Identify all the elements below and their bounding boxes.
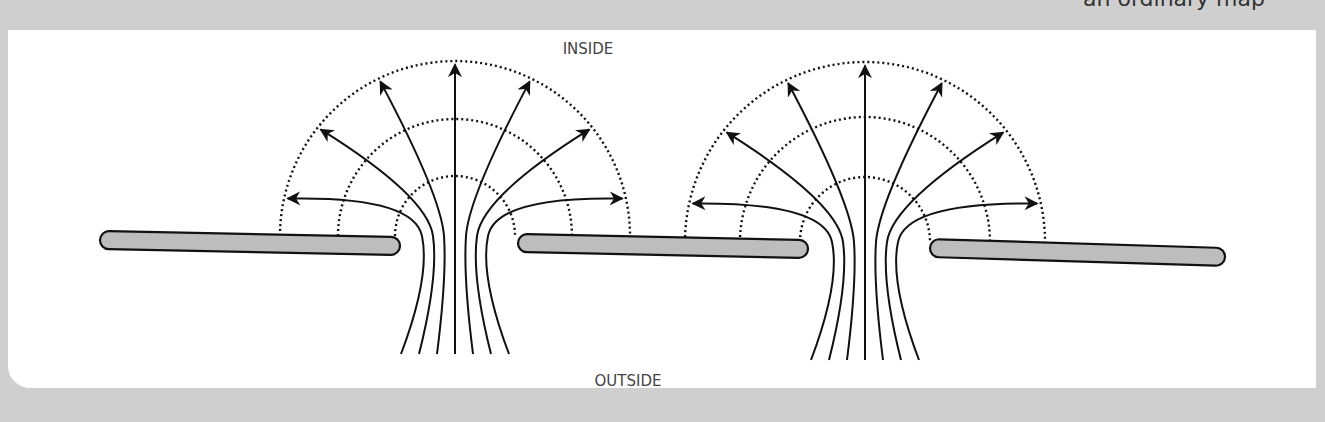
dome-group [280, 61, 1045, 360]
conducting-plate [930, 239, 1226, 266]
field-line-arrow [693, 203, 834, 360]
inside-label: INSIDE [563, 40, 614, 58]
field-line-arrow [896, 203, 1037, 360]
field-line-arrow [288, 198, 424, 354]
field-line-arrow [486, 198, 622, 354]
field-line-arrow [465, 82, 529, 354]
field-line-arrow [380, 82, 444, 354]
field-diagram: INSIDE OUTSIDE [0, 0, 1325, 422]
outside-label: OUTSIDE [595, 372, 662, 390]
plate-group [100, 231, 1225, 266]
conducting-plate [100, 231, 400, 255]
conducting-plate [518, 234, 808, 258]
